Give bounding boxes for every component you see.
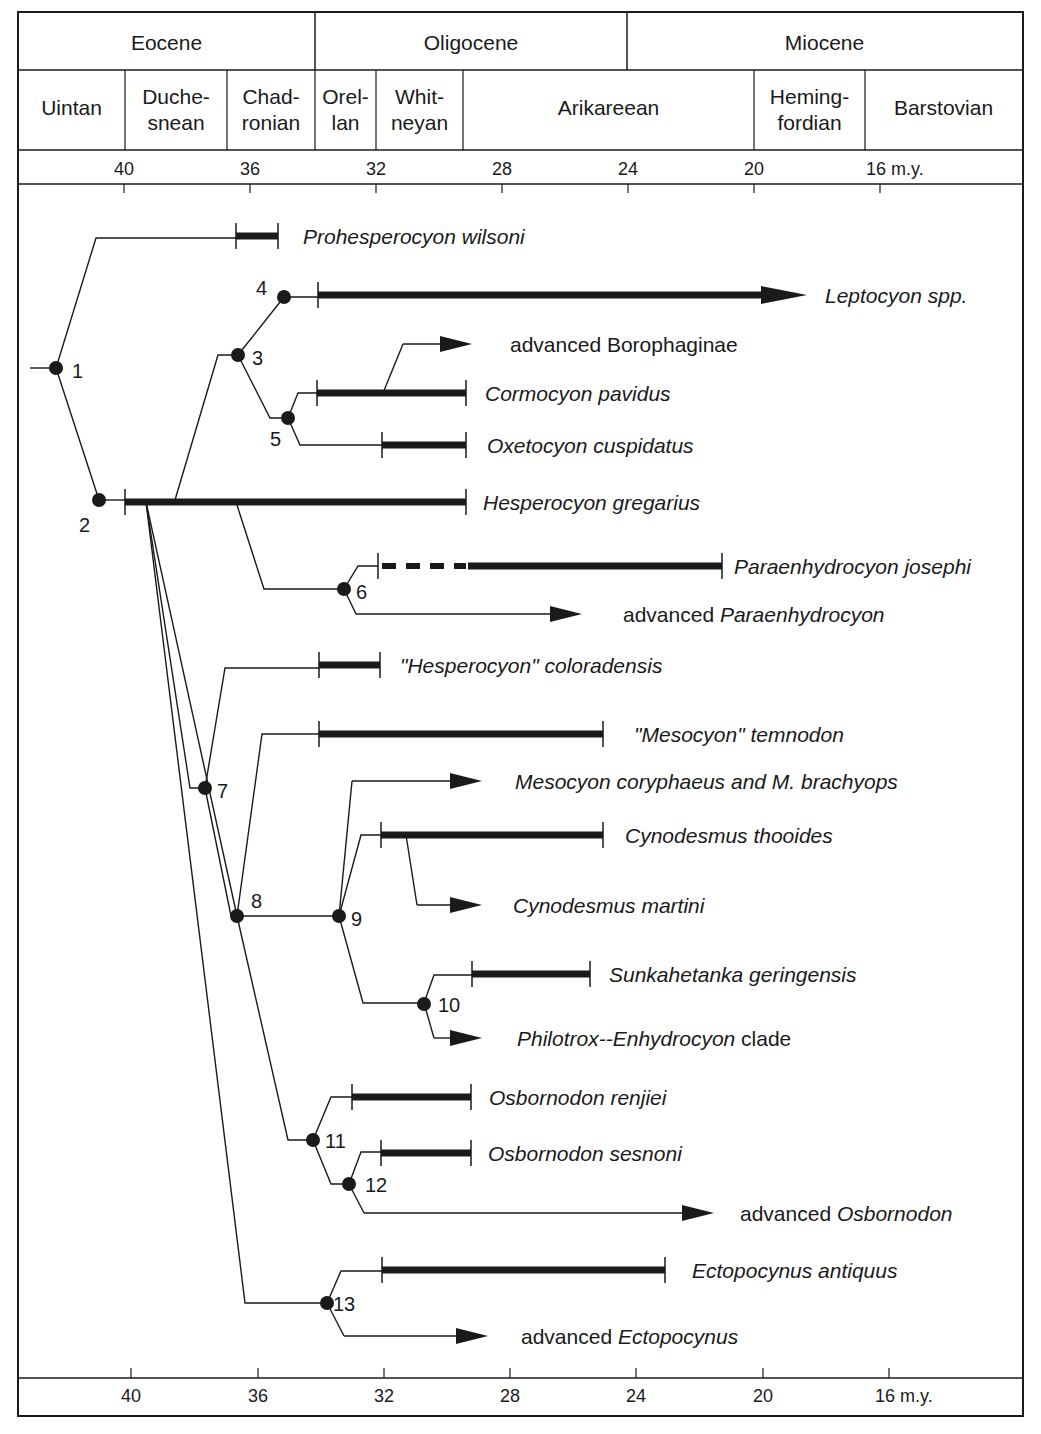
- axis-tick-label: 16 m.y.: [875, 1386, 933, 1406]
- land-mammal-age-row: UintanDuche-sneanChad-ronianOrel-lanWhit…: [41, 70, 993, 150]
- age-label: Heming-: [770, 85, 849, 108]
- epoch-label: Eocene: [131, 31, 202, 54]
- node-number: 4: [256, 277, 267, 299]
- node-dot: [281, 411, 295, 425]
- branch-line: [288, 418, 382, 445]
- axis-tick-label: 32: [374, 1386, 394, 1406]
- node-number: 7: [217, 780, 228, 802]
- taxon-label: Osbornodon renjiei: [489, 1086, 668, 1109]
- node-number: 10: [438, 994, 460, 1016]
- arrow-icon: [450, 1030, 482, 1046]
- age-label: lan: [331, 111, 359, 134]
- taxon-label: advanced Osbornodon: [740, 1202, 953, 1225]
- taxon-label: Philotrox--Enhydrocyon clade: [517, 1027, 791, 1050]
- axis-tick-label: 36: [240, 159, 260, 179]
- axis-tick-label: 40: [121, 1386, 141, 1406]
- branch-line: [406, 835, 417, 905]
- age-label: Barstovian: [894, 96, 993, 119]
- axis-tick-label: 16 m.y.: [866, 159, 924, 179]
- age-label: Whit-: [395, 85, 444, 108]
- node-number: 5: [270, 428, 281, 450]
- branch-line: [238, 297, 318, 355]
- axis-tick-label: 24: [618, 159, 638, 179]
- node-number: 6: [356, 581, 367, 603]
- arrow-icon: [456, 1328, 488, 1344]
- node-dot: [230, 909, 244, 923]
- age-label: fordian: [777, 111, 841, 134]
- arrow-icon: [440, 336, 472, 352]
- node-dot: [92, 493, 106, 507]
- node-number: 2: [79, 514, 90, 536]
- node-number: 8: [251, 890, 262, 912]
- node-dot: [198, 781, 212, 795]
- age-label: Duche-: [142, 85, 210, 108]
- branch-line: [339, 781, 352, 916]
- node-dot: [306, 1133, 320, 1147]
- node-dot: [417, 997, 431, 1011]
- arrow-icon: [761, 286, 807, 304]
- axis-tick-label: 36: [248, 1386, 268, 1406]
- arrow-icon: [550, 606, 582, 622]
- node-dot: [337, 582, 351, 596]
- taxon-label: Leptocyon spp.: [825, 284, 967, 307]
- axis-tick-label: 28: [492, 159, 512, 179]
- branch-line: [146, 502, 237, 916]
- node-dot: [277, 290, 291, 304]
- axis-tick-label: 28: [500, 1386, 520, 1406]
- taxon-label: Osbornodon sesnoni: [488, 1142, 683, 1165]
- taxon-label: Cynodesmus thooides: [625, 824, 833, 847]
- age-label: Uintan: [41, 96, 102, 119]
- branch-line: [205, 668, 319, 788]
- age-label: ronian: [242, 111, 300, 134]
- epoch-header-row: EoceneOligoceneMiocene: [131, 12, 864, 70]
- branch-line: [56, 238, 236, 368]
- taxon-label: Cormocyon pavidus: [485, 382, 671, 405]
- time-axis-bottom: 40363228242016 m.y.: [121, 1368, 933, 1406]
- node-dot: [332, 909, 346, 923]
- arrow-icon: [450, 897, 482, 913]
- age-label: Chad-: [242, 85, 299, 108]
- node-number: 3: [252, 347, 263, 369]
- axis-tick-label: 40: [114, 159, 134, 179]
- node-dot: [320, 1296, 334, 1310]
- taxon-label: Oxetocyon cuspidatus: [487, 434, 694, 457]
- node-number: 13: [333, 1293, 355, 1315]
- taxon-label: Sunkahetanka geringensis: [609, 963, 857, 986]
- taxon-label: advanced Paraenhydrocyon: [623, 603, 885, 626]
- arrow-icon: [682, 1205, 714, 1221]
- axis-tick-label: 24: [626, 1386, 646, 1406]
- arrow-icon: [450, 773, 482, 789]
- node-dot: [231, 348, 245, 362]
- node-number: 11: [325, 1130, 346, 1152]
- taxon-label: Paraenhydrocyon josephi: [734, 555, 972, 578]
- axis-tick-label: 32: [366, 159, 386, 179]
- node-dot: [342, 1177, 356, 1191]
- time-axis-top: 40363228242016 m.y.: [114, 159, 924, 193]
- taxon-label: Prohesperocyon wilsoni: [303, 225, 526, 248]
- node-number: 1: [72, 360, 83, 382]
- taxon-label: "Mesocyon" temnodon: [634, 723, 844, 746]
- age-label: neyan: [391, 111, 448, 134]
- node-number: 9: [351, 908, 362, 930]
- taxon-label: Cynodesmus martini: [513, 894, 706, 917]
- phylogeny-figure: EoceneOligoceneMiocene UintanDuche-snean…: [0, 0, 1041, 1434]
- epoch-label: Miocene: [785, 31, 864, 54]
- epoch-label: Oligocene: [424, 31, 519, 54]
- node-number: 12: [365, 1174, 387, 1196]
- taxon-label: "Hesperocyon" coloradensis: [400, 654, 663, 677]
- branch-line: [383, 344, 403, 393]
- branch-line: [146, 502, 327, 1303]
- branch-line: [175, 355, 238, 500]
- age-label: snean: [147, 111, 204, 134]
- age-label: Orel-: [322, 85, 369, 108]
- branch-line: [56, 368, 99, 500]
- taxon-label: Ectopocynus antiquus: [692, 1259, 898, 1282]
- axis-tick-label: 20: [753, 1386, 773, 1406]
- tree-nodes: 12345678910111213: [49, 277, 460, 1315]
- branch-line: [236, 502, 344, 589]
- node-dot: [49, 361, 63, 375]
- branch-line: [237, 734, 319, 916]
- taxon-label: advanced Borophaginae: [510, 333, 738, 356]
- taxon-label: Mesocyon coryphaeus and M. brachyops: [515, 770, 898, 793]
- tree-branches: [30, 238, 472, 1336]
